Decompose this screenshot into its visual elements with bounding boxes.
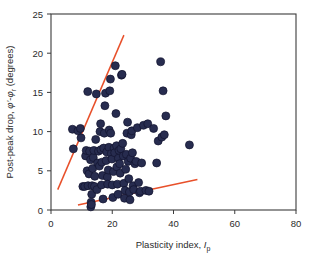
data-point [160,131,168,139]
x-axis-tick-labels: 020406080 [48,218,301,229]
x-tick-label: 40 [168,218,179,229]
scatter-plot-figure: 020406080 0510152025 Plasticity index, I… [0,0,310,257]
data-point [106,75,114,83]
data-point [162,112,170,120]
data-point [111,62,119,70]
data-point [145,187,153,195]
y-axis-tick-labels: 0510152025 [32,9,43,216]
data-point [128,149,136,157]
data-point [112,110,120,118]
data-point [185,141,193,149]
y-tick-label: 25 [32,9,43,20]
y-tick-label: 10 [32,126,43,137]
data-point [153,159,161,167]
data-point [118,70,126,78]
data-point [84,88,92,96]
y-tick-label: 0 [38,205,43,216]
y-tick-label: 5 [38,165,43,176]
y-axis-title-units: (degrees) [4,46,15,89]
y-axis-title: Post-peak drop, φ'-φr (degrees) [4,46,17,179]
data-point [126,196,134,204]
data-point [106,87,114,95]
x-tick-label: 60 [229,218,240,229]
data-point [99,195,107,203]
data-point [69,145,77,153]
data-point [77,134,85,142]
data-point [97,120,105,128]
x-axis-title-subscript: p [206,245,210,253]
data-point [135,179,143,187]
data-point [92,90,100,98]
data-point [150,124,158,132]
chart-canvas: 020406080 0510152025 Plasticity index, I… [0,0,310,257]
data-point [159,87,167,95]
y-axis-title-main: Post-peak drop, [4,109,15,179]
plot-frame [51,14,296,210]
x-tick-label: 80 [291,218,302,229]
data-point [76,124,84,132]
x-tick-label: 0 [48,218,53,229]
x-tick-label: 20 [107,218,118,229]
y-axis-ticks [47,14,51,210]
data-point [92,135,100,143]
data-points-group [68,58,193,211]
data-point [91,172,99,180]
data-point [122,165,130,173]
data-point [107,129,115,137]
data-point [124,118,132,126]
x-axis-ticks [51,210,296,214]
data-point [125,175,133,183]
data-point [138,159,146,167]
data-point [101,102,109,110]
y-tick-label: 20 [32,48,43,59]
data-point [119,139,127,147]
x-axis-title: Plasticity index, Ip [136,239,211,253]
x-axis-title-main: Plasticity index, [136,239,204,250]
y-tick-label: 15 [32,87,43,98]
data-point [157,58,165,66]
data-point [87,201,95,209]
